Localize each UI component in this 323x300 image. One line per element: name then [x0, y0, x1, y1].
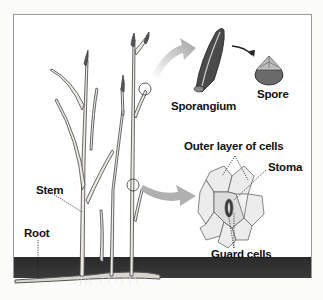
label-outer-layer-of-cells: Outer layer of cells	[184, 140, 284, 152]
arrow-to-spore	[232, 46, 252, 55]
label-guard-cells: Guard cells	[211, 248, 271, 260]
label-spore: Spore	[257, 88, 289, 100]
sporangium-illustration	[194, 28, 224, 92]
rhizome	[15, 272, 160, 283]
label-root: Root	[24, 227, 49, 239]
spore-illustration	[255, 56, 283, 85]
label-sporangium: Sporangium	[171, 100, 236, 112]
arrow-to-cells	[140, 185, 196, 206]
arrow-to-sporangium	[152, 38, 196, 78]
label-stoma: Stoma	[268, 161, 302, 173]
label-stem: Stem	[36, 184, 63, 196]
stems	[50, 32, 149, 276]
